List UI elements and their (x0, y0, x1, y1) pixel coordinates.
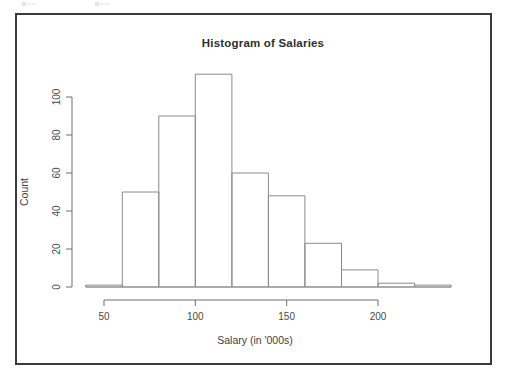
bars-layer (86, 74, 451, 287)
histogram-bar (159, 116, 196, 287)
y-tick-label: 20 (51, 243, 62, 255)
histogram-bar (122, 192, 159, 287)
histogram-figure: Histogram of Salaries 020406080100 Count… (0, 0, 511, 377)
histogram-bar (342, 270, 379, 287)
y-tick-label: 60 (51, 167, 62, 179)
x-axis: 50100150200 Salary (in '000s) (98, 300, 386, 346)
histogram-bar (305, 243, 342, 287)
y-tick-marks (66, 97, 72, 287)
y-tick-label: 0 (51, 284, 62, 290)
y-axis-label: Count (18, 178, 30, 206)
y-tick-labels: 020406080100 (51, 88, 62, 290)
x-tick-labels: 50100150200 (98, 311, 386, 322)
y-tick-label: 80 (51, 129, 62, 141)
x-tick-marks (104, 300, 378, 306)
x-tick-label: 50 (98, 311, 110, 322)
y-tick-label: 100 (51, 88, 62, 105)
x-tick-label: 150 (278, 311, 295, 322)
x-tick-label: 100 (187, 311, 204, 322)
histogram-bar (195, 74, 232, 287)
histogram-bar (232, 173, 269, 287)
y-tick-label: 40 (51, 205, 62, 217)
histogram-bar (268, 196, 305, 287)
x-tick-label: 200 (370, 311, 387, 322)
x-axis-label: Salary (in '000s) (217, 334, 293, 346)
y-axis: 020406080100 Count (18, 88, 72, 290)
chart-title: Histogram of Salaries (202, 37, 324, 49)
